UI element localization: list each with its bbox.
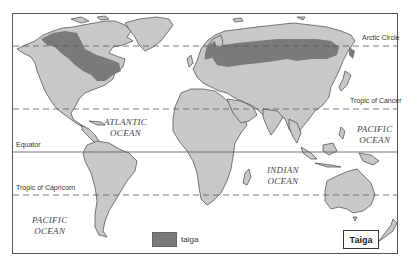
tropic-of-capricorn-label: Tropic of Capricorn [16,184,75,191]
legend: taiga [152,232,198,247]
new-zealand [379,219,397,241]
japan [339,71,351,91]
central-america [81,125,99,143]
atlantic-ocean-label: ATLANTIC OCEAN [104,117,147,139]
java [315,163,341,167]
sumatra [301,147,317,159]
australia [325,169,375,213]
world-map-frame [12,13,398,254]
legend-swatch-taiga [152,232,177,247]
world-map [13,14,398,254]
caribbean [89,121,105,125]
indian-ocean-label: INDIAN OCEAN [267,165,299,187]
pacific-ocean-west-label: PACIFIC OCEAN [32,215,67,237]
map-title: Taiga [343,230,379,249]
tropic-of-cancer-label: Tropic of Cancer [350,97,401,104]
taiga-kamchatka [349,47,355,59]
equator-label: Equator [16,141,41,148]
south-america [83,141,137,237]
new-guinea [359,153,379,165]
philippines [339,127,345,139]
britain [187,55,193,67]
tasmania [353,217,357,221]
legend-label-taiga: taiga [181,235,198,244]
borneo [323,143,337,155]
arctic-circle-label: Arctic Circle [362,34,399,41]
pacific-ocean-east-label: PACIFIC OCEAN [357,124,392,146]
madagascar [243,169,251,185]
